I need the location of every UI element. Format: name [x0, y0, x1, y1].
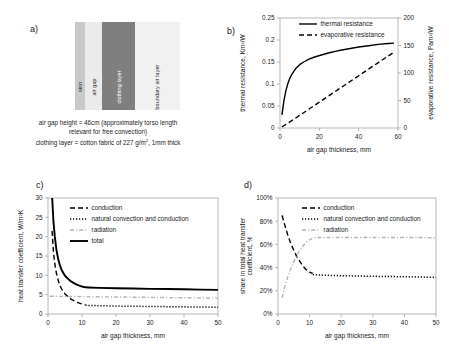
y-tick-label: 0.25 — [262, 14, 275, 21]
y2-tick-label: 0 — [404, 124, 408, 131]
x-tick-label: 40 — [355, 133, 363, 140]
y-tick-label: 0.2 — [266, 36, 275, 43]
y-axis-title: share in total heat transfercoefficient,… — [239, 217, 254, 294]
x-axis-title: air gap thickness, mm — [101, 332, 166, 340]
y-axis-title: heat transfer coefficient, W/m²K — [17, 209, 24, 302]
y-tick-label: 60% — [260, 241, 273, 248]
panel-d-chart: 010203040500%20%40%60%80%100%air gap thi… — [228, 176, 449, 360]
legend-label-total: total — [92, 237, 104, 244]
panel-a-caption: air gap height = 46cm (approximately tor… — [8, 118, 208, 148]
y-tick-label: 0 — [39, 310, 43, 317]
x-tick-label: 40 — [180, 319, 188, 326]
y-axis-title-line: coefficient, % — [246, 236, 253, 275]
y-tick-label: 0.15 — [262, 58, 275, 65]
layer-boundary-air: boundary air layer — [135, 22, 180, 110]
layer-boundary-air-label: boundary air layer — [155, 65, 161, 110]
x-tick-label: 20 — [338, 319, 346, 326]
y-tick-label: 0% — [263, 310, 273, 317]
series-conduction — [282, 215, 313, 273]
y-tick-label: 25 — [35, 214, 43, 221]
y-tick-label: 0.05 — [262, 102, 275, 109]
y2-tick-label: 150 — [404, 42, 415, 49]
legend-label-thermal-resistance: thermal resistance — [321, 20, 374, 27]
x-tick-label: 20 — [112, 319, 120, 326]
x-tick-label: 0 — [46, 319, 50, 326]
x-tick-label: 40 — [401, 319, 409, 326]
caption-line-3: clothing layer = cotton fabric of 227 g/… — [8, 136, 208, 147]
y-tick-label: 40% — [260, 264, 273, 271]
y2-tick-label: 200 — [404, 14, 415, 21]
x-tick-label: 50 — [214, 319, 222, 326]
y-axis-title-line: share in total heat transfer — [239, 217, 246, 294]
series-group — [282, 43, 394, 127]
series-radiation — [50, 296, 218, 298]
series-natural-convection-and-conduction — [313, 275, 436, 278]
x-tick-label: 10 — [306, 319, 314, 326]
layer-skin-label: skin — [77, 82, 83, 92]
x-tick-label: 60 — [394, 133, 402, 140]
y-axis-title: thermal resistance, Km²/W — [239, 33, 246, 111]
series-evaporative-resistance — [282, 52, 394, 127]
x-tick-label: 30 — [146, 319, 154, 326]
panel-d: d) 010203040500%20%40%60%80%100%air gap … — [228, 176, 449, 360]
x-tick-label: 20 — [316, 133, 324, 140]
y-tick-label: 15 — [35, 252, 43, 259]
legend-label-natural-convection-and-conduction: natural convection and conduction — [92, 215, 189, 222]
x-tick-label: 50 — [432, 319, 440, 326]
series-thermal-resistance — [282, 43, 394, 115]
panel-b-chart: 020406000.050.10.150.20.25050100150200ai… — [215, 0, 449, 172]
x-tick-label: 10 — [78, 319, 86, 326]
panel-c-chart: 01020304050051015202530air gap thickness… — [8, 176, 236, 360]
y-tick-label: 10 — [35, 272, 43, 279]
y-tick-label: 0 — [271, 124, 275, 131]
x-tick-label: 0 — [276, 319, 280, 326]
x-axis-title: air gap thickness, mm — [325, 332, 390, 340]
caption-line-3-post: , 1mm thick — [148, 140, 180, 147]
y-tick-label: 0.1 — [266, 80, 275, 87]
x-axis-title: air gap thickness, mm — [307, 146, 372, 154]
legend-label-radiation: radiation — [92, 226, 117, 233]
y-tick-label: 80% — [260, 218, 273, 225]
y-tick-label: 20% — [260, 287, 273, 294]
series-group — [282, 215, 436, 297]
y2-tick-label: 100 — [404, 69, 415, 76]
layer-clothing: clothing layer — [102, 22, 135, 110]
panel-a-label: a) — [30, 24, 38, 34]
y2-tick-label: 50 — [404, 97, 412, 104]
legend-label-natural-convection-and-conduction: natural convection and conduction — [324, 215, 421, 222]
y-tick-label: 30 — [35, 194, 43, 201]
caption-line-1: air gap height = 46cm (approximately tor… — [8, 118, 208, 127]
y2-axis-title: evaporative resistance, Pam²/W — [427, 26, 435, 120]
panel-a: a) skin air gap clothing layer boundary … — [0, 0, 215, 172]
layer-air-gap-label: air gap — [91, 78, 97, 95]
caption-line-3-pre: clothing layer = cotton fabric of 227 g/… — [36, 140, 146, 147]
x-tick-label: 0 — [278, 133, 282, 140]
series-natural-convection-and-conduction — [85, 305, 218, 307]
clothing-layer-diagram: skin air gap clothing layer boundary air… — [75, 22, 141, 110]
legend-label-conduction: conduction — [92, 204, 123, 211]
y-tick-label: 20 — [35, 233, 43, 240]
x-tick-label: 30 — [369, 319, 377, 326]
legend-label-evaporative-resistance: evaporative resistance — [321, 31, 385, 39]
panel-b: b) 020406000.050.10.150.20.2505010015020… — [215, 0, 449, 172]
series-group — [50, 196, 218, 307]
y-tick-label: 100% — [256, 194, 273, 201]
legend-label-radiation: radiation — [324, 226, 349, 233]
figure-root: a) skin air gap clothing layer boundary … — [0, 0, 449, 360]
y-tick-label: 5 — [39, 291, 43, 298]
panel-c: c) 01020304050051015202530air gap thickn… — [8, 176, 236, 360]
layer-skin: skin — [75, 22, 85, 110]
layer-air-gap: air gap — [85, 22, 102, 110]
layer-clothing-label: clothing layer — [116, 70, 122, 103]
series-total — [52, 196, 218, 290]
caption-line-2: relevant for free convection) — [8, 127, 208, 136]
legend-label-conduction: conduction — [324, 204, 355, 211]
